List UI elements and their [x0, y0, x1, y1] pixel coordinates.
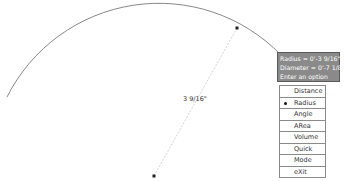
arc	[7, 3, 281, 97]
center-point-marker	[153, 175, 156, 178]
menu-item-exit[interactable]: eXit	[279, 166, 326, 179]
dimension-label: 3 9/16"	[183, 95, 207, 103]
option-menu: Distance Radius Angle ARea Volume Quick …	[279, 85, 326, 177]
tooltip-radius: Radius = 0'-3 9/16"	[280, 54, 337, 63]
arc-point-marker	[236, 27, 239, 30]
selected-bullet-icon	[284, 102, 287, 105]
measure-tooltip: Radius = 0'-3 9/16" Diameter = 0'-7 1/8"…	[277, 52, 340, 82]
tooltip-diameter: Diameter = 0'-7 1/8"	[280, 63, 337, 72]
tooltip-prompt: Enter an option	[280, 72, 337, 81]
